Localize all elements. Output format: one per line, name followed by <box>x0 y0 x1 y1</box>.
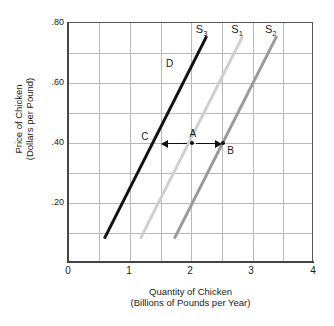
x-tick-0: 0 <box>58 266 78 276</box>
gridline-v-1.0 <box>130 23 131 261</box>
point-label-A: A <box>190 129 197 139</box>
curve-label-s1: S1 <box>231 24 243 39</box>
y-tick-020: .20 <box>38 198 64 207</box>
gridline-h-0.50 <box>69 113 312 114</box>
x-tick-2: 2 <box>180 266 200 276</box>
curve-label-s3: S3 <box>196 24 208 39</box>
curve-label-s2: S2 <box>265 24 277 39</box>
x-tick-1: 1 <box>119 266 139 276</box>
y-axis-tick-labels: .80 .60 .40 .20 <box>34 0 64 326</box>
y-axis-title: Price of Chicken (Dollars per Pound) <box>13 49 35 189</box>
point-dot-B <box>221 141 225 145</box>
point-dot-A <box>190 141 194 145</box>
x-tick-4: 4 <box>303 266 323 276</box>
gridline-h-0.30 <box>69 173 312 174</box>
gridline-v-0.5 <box>99 23 100 261</box>
x-axis-title-main: Quantity of Chicken <box>68 286 313 297</box>
shift-left-arrow-head <box>161 140 168 148</box>
point-label-B: B <box>227 146 234 156</box>
point-label-D: D <box>166 59 173 69</box>
y-tick-080: .80 <box>38 18 64 27</box>
x-axis-title-sub: (Billions of Pounds per Year) <box>68 297 313 308</box>
x-axis-title: Quantity of Chicken (Billions of Pounds … <box>68 286 313 308</box>
point-label-C: C <box>141 132 148 142</box>
y-axis-title-sub: (Dollars per Pound) <box>24 49 35 189</box>
supply-curve-chart: .80 .60 .40 .20 Price of Chicken (Dollar… <box>0 0 334 326</box>
y-tick-040: .40 <box>38 138 64 147</box>
gridline-v-3.5 <box>283 23 284 261</box>
gridline-h-0.70 <box>69 53 312 54</box>
x-tick-3: 3 <box>241 266 261 276</box>
gridline-h-0.60 <box>69 83 312 84</box>
shift-right-arrow-head <box>215 140 222 148</box>
plot-area: S3 S1 S2 A B C D <box>68 22 313 262</box>
y-axis-line <box>67 22 69 263</box>
x-axis-line <box>67 261 314 263</box>
y-tick-060: .60 <box>38 78 64 87</box>
gridline-v-3.0 <box>253 23 254 261</box>
y-axis-title-main: Price of Chicken <box>13 49 24 189</box>
